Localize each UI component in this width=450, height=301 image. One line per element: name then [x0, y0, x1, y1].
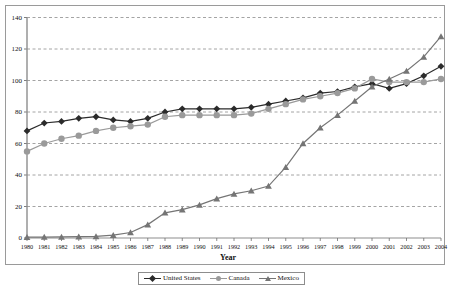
- data-point-marker: [352, 85, 358, 91]
- data-point-marker: [58, 136, 64, 142]
- data-point-marker: [369, 76, 375, 82]
- data-point-marker: [438, 76, 444, 82]
- series-markers-group: [24, 33, 445, 240]
- x-tick-label: 1980: [21, 243, 33, 250]
- axis-lines-group: [24, 18, 441, 242]
- x-tick-label: 2004: [435, 243, 447, 250]
- data-point-marker: [145, 121, 151, 127]
- data-point-marker: [75, 115, 82, 122]
- data-point-marker: [386, 85, 393, 92]
- x-tick-label: 1998: [331, 243, 343, 250]
- x-tick-label: 1993: [245, 243, 257, 250]
- data-point-marker: [196, 112, 202, 118]
- x-tick-label: 1985: [107, 243, 119, 250]
- data-point-marker: [41, 120, 48, 127]
- data-point-marker: [179, 112, 185, 118]
- data-point-marker: [317, 93, 323, 99]
- x-tick-labels-group: 1980198119821983198419851986198719881989…: [21, 243, 447, 250]
- data-point-marker: [300, 96, 306, 102]
- data-point-marker: [248, 110, 254, 116]
- x-tick-label: 1984: [90, 243, 102, 250]
- data-point-marker: [127, 123, 133, 129]
- x-tick-label: 1986: [124, 243, 136, 250]
- data-point-marker: [162, 114, 168, 120]
- data-point-marker: [386, 76, 393, 82]
- x-tick-label: 1983: [73, 243, 85, 250]
- y-tick-label: 40: [15, 171, 23, 179]
- legend-swatch-triangle-icon: [259, 275, 276, 282]
- data-point-marker: [196, 105, 203, 112]
- x-axis-title: Year: [220, 253, 236, 262]
- data-point-marker: [110, 125, 116, 131]
- data-point-marker: [41, 140, 47, 146]
- x-tick-label: 1995: [280, 243, 292, 250]
- legend-swatch-diamond-icon: [144, 275, 161, 282]
- data-point-marker: [76, 132, 82, 138]
- chart-canvas: 020406080100120140 198019811982198319841…: [0, 0, 450, 301]
- series-line: [27, 36, 441, 237]
- legend-item-mexico[interactable]: Mexico: [259, 275, 299, 282]
- x-tick-label: 1994: [262, 243, 274, 250]
- data-point-marker: [196, 202, 203, 208]
- data-point-marker: [110, 116, 117, 123]
- data-point-marker: [248, 104, 255, 111]
- x-tick-label: 1988: [159, 243, 171, 250]
- legend-label: United States: [163, 275, 201, 282]
- data-point-marker: [144, 115, 151, 122]
- data-point-marker: [420, 72, 427, 79]
- y-tick-label: 0: [19, 234, 23, 242]
- x-tick-label: 1992: [228, 243, 240, 250]
- chart-container: 020406080100120140 198019811982198319841…: [0, 0, 450, 301]
- y-tick-label: 140: [12, 14, 23, 22]
- x-tick-label: 1989: [176, 243, 188, 250]
- x-tick-label: 1991: [211, 243, 223, 250]
- y-tick-label: 60: [15, 140, 23, 148]
- data-point-marker: [24, 128, 31, 135]
- legend-label: Canada: [229, 275, 250, 282]
- data-point-marker: [231, 112, 237, 118]
- data-point-marker: [214, 112, 220, 118]
- data-point-marker: [421, 79, 427, 85]
- data-point-marker: [93, 128, 99, 134]
- data-point-marker: [24, 148, 30, 154]
- x-tick-label: 1981: [38, 243, 50, 250]
- chart-legend: United States Canada Mexico: [138, 272, 305, 285]
- data-point-marker: [58, 118, 65, 125]
- data-point-marker: [93, 113, 100, 120]
- x-tick-label: 1997: [314, 243, 326, 250]
- data-point-marker: [403, 79, 409, 85]
- data-point-marker: [438, 33, 445, 39]
- x-tick-label: 2003: [418, 243, 430, 250]
- x-tick-label: 1996: [297, 243, 309, 250]
- legend-label: Mexico: [278, 275, 299, 282]
- data-point-marker: [213, 105, 220, 112]
- legend-swatch-circle-icon: [210, 275, 227, 282]
- data-point-marker: [334, 90, 340, 96]
- data-point-marker: [283, 101, 289, 107]
- y-tick-label: 20: [15, 203, 23, 211]
- x-tick-label: 1990: [193, 243, 205, 250]
- y-tick-label: 80: [15, 108, 23, 116]
- series-line: [27, 66, 441, 131]
- x-tick-label: 2000: [366, 243, 378, 250]
- data-point-marker: [265, 106, 271, 112]
- x-tick-label: 2001: [383, 243, 395, 250]
- series-lines-group: [27, 36, 441, 237]
- x-tick-label: 1987: [142, 243, 154, 250]
- data-point-marker: [231, 105, 238, 112]
- legend-item-united-states[interactable]: United States: [144, 275, 201, 282]
- legend-item-canada[interactable]: Canada: [210, 275, 250, 282]
- data-point-marker: [438, 63, 445, 70]
- x-tick-label: 1999: [349, 243, 361, 250]
- x-tick-label: 1982: [55, 243, 67, 250]
- y-tick-labels-group: 020406080100120140: [12, 14, 23, 243]
- x-tick-label: 2002: [400, 243, 412, 250]
- y-tick-label: 100: [12, 77, 23, 85]
- y-tick-label: 120: [12, 45, 23, 53]
- data-point-marker: [179, 105, 186, 112]
